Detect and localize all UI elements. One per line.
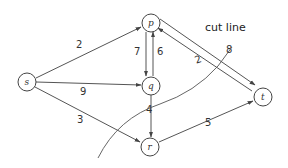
svg-text:q: q: [148, 81, 154, 91]
node-p: p: [142, 14, 160, 32]
node-q: q: [142, 77, 160, 95]
edge-t-p: [158, 28, 252, 91]
node-t: t: [254, 88, 272, 106]
node-r: r: [141, 138, 159, 156]
node-s: s: [18, 73, 36, 91]
weight-t-p: 2: [193, 53, 203, 66]
flow-network-diagram: 2 9 3 7 6 8 2 4 5 cut line s p q: [0, 0, 288, 168]
edge-s-r: [35, 87, 140, 142]
weight-p-q: 7: [134, 46, 140, 57]
weight-s-r: 3: [77, 114, 83, 125]
weight-s-q: 9: [80, 86, 86, 97]
svg-text:r: r: [148, 142, 153, 152]
edge-s-p: [36, 27, 141, 78]
svg-text:p: p: [148, 18, 154, 28]
edge-s-q: [36, 82, 141, 85]
weight-q-p: 6: [157, 46, 163, 57]
weight-s-p: 2: [76, 39, 82, 50]
cut-line-label: cut line: [205, 21, 246, 34]
svg-text:s: s: [25, 77, 30, 87]
weight-r-t: 5: [205, 117, 211, 128]
svg-text:t: t: [261, 92, 265, 102]
